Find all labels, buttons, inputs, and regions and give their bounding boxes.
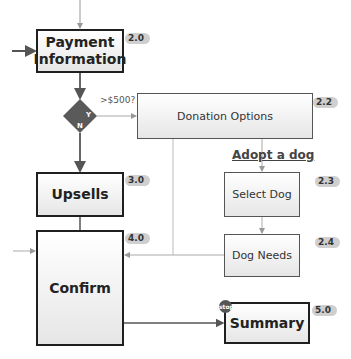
select-dog-label: Select Dog: [232, 188, 292, 201]
payment-line1: Payment: [46, 34, 115, 51]
confirm-node[interactable]: Confirm: [36, 230, 124, 346]
dog-needs-node[interactable]: Dog Needs: [224, 234, 300, 277]
select-dog-id-badge: 2.3: [315, 176, 340, 187]
confirm-id-badge: 4.0: [125, 233, 150, 244]
decision-yes-label: Y: [86, 111, 91, 119]
upsells-id-badge: 3.0: [125, 175, 150, 186]
stop-icon: stop: [219, 300, 232, 313]
summary-node[interactable]: Summary: [224, 302, 310, 344]
decision-no-label: N: [77, 122, 83, 130]
confirm-label: Confirm: [49, 280, 111, 297]
upsells-node[interactable]: Upsells: [36, 172, 124, 217]
upsells-label: Upsells: [51, 186, 108, 203]
dog-needs-label: Dog Needs: [232, 249, 292, 262]
donation-options-node[interactable]: Donation Options: [137, 93, 313, 139]
dog-needs-id-badge: 2.4: [315, 237, 340, 248]
summary-label: Summary: [230, 315, 305, 332]
payment-information-node[interactable]: Payment Information: [36, 29, 124, 73]
adopt-a-dog-label: Adopt a dog: [232, 148, 314, 162]
payment-line2: Information: [34, 51, 127, 68]
payment-id-badge: 2.0: [125, 33, 150, 44]
donation-id-badge: 2.2: [313, 97, 338, 108]
decision-question: >$500?: [100, 95, 135, 105]
summary-id-badge: 5.0: [312, 305, 337, 316]
donation-label: Donation Options: [177, 110, 273, 123]
select-dog-node[interactable]: Select Dog: [224, 172, 300, 217]
